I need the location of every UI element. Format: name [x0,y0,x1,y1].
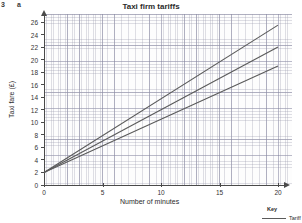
legend-title: Key [267,206,277,212]
legend-swatch-tariff-1 [262,218,286,219]
series-line-2 [44,47,278,172]
series-lines [0,0,302,223]
legend-label-tariff-1: Tariff 1 [289,215,302,221]
series-line-3 [44,66,278,173]
y-axis-title: Taxi fare (£) [8,57,15,143]
x-axis-title: Number of minutes [120,198,179,205]
series-line-1 [44,25,278,172]
